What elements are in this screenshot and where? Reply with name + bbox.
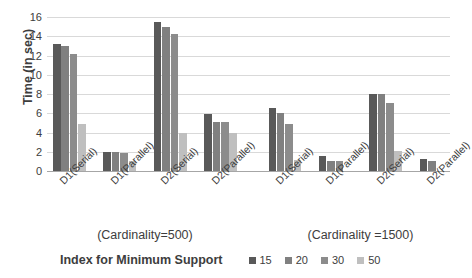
group-caption: (Cardinality=500) [65,228,225,242]
bar [213,122,221,171]
bar [103,152,111,171]
y-axis-tick-label: 4 [36,127,42,139]
legend-label: 50 [368,254,380,266]
legend-label: 30 [332,254,344,266]
legend-title: Index for Minimum Support [60,253,223,267]
bar [53,44,61,171]
bar [204,114,212,171]
legend: Index for Minimum Support 15203050 [60,253,400,267]
legend-entry: 30 [321,254,344,266]
bar [277,113,285,171]
group-caption: (Cardinality =1500) [280,228,440,242]
legend-entry: 50 [357,254,380,266]
legend-swatch [285,257,292,264]
y-axis-tick-label: 16 [30,11,42,23]
legend-entries: 15203050 [249,254,394,266]
legend-label: 20 [296,254,308,266]
legend-swatch [321,257,328,264]
y-axis-tick-label: 2 [36,146,42,158]
legend-swatch [357,257,364,264]
bar [369,94,377,171]
bar [420,159,428,172]
legend-entry: 20 [285,254,308,266]
bar [154,22,162,171]
y-axis-tick-label: 8 [36,88,42,100]
bar [70,54,78,171]
legend-swatch [249,257,256,264]
legend-label: 15 [260,254,272,266]
y-axis-tick-label: 0 [36,165,42,177]
bar [378,94,386,171]
bar [319,156,327,171]
y-axis-tick-label: 14 [30,30,42,42]
y-axis-tick-label: 10 [30,69,42,81]
y-axis-tick-label: 12 [30,50,42,62]
bar [61,46,69,171]
bar [269,108,277,171]
bar [162,27,170,171]
y-axis-tick-label: 6 [36,107,42,119]
bar [171,34,179,171]
legend-entry: 15 [249,254,272,266]
